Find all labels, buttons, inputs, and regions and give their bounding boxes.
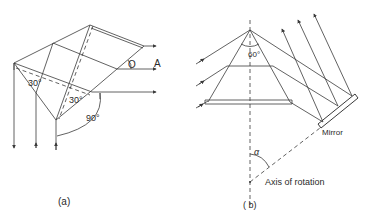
figure-a: 30° 30° 90° O A (a): [14, 25, 161, 207]
point-label-o: O: [128, 59, 136, 70]
mirror-label: Mirror: [322, 128, 343, 137]
apex-angle-label: 60°: [248, 50, 260, 59]
prism-b: [205, 30, 292, 104]
axis-of-rotation-label: Axis of rotation: [265, 177, 325, 187]
axis-of-rotation-line: [250, 128, 320, 182]
angle-label-30-left: 30°: [28, 78, 42, 88]
mirror: [318, 94, 358, 128]
point-label-a: A: [154, 58, 161, 69]
reflected-rays: [282, 14, 352, 122]
optics-diagram: 30° 30° 90° O A (a) 60°: [0, 0, 374, 217]
prism-a-outline: [14, 25, 144, 120]
rotation-point: [249, 181, 251, 183]
caption-a: (a): [58, 196, 70, 207]
alpha-label: α: [254, 147, 260, 157]
incoming-rays-b: [196, 30, 250, 108]
alpha-arc: [250, 154, 269, 167]
angle-label-30-bottom: 30°: [69, 95, 83, 105]
angle-label-90: 90°: [86, 113, 100, 123]
caption-b: ( b): [243, 200, 257, 210]
figure-b: 60° Mirror α: [196, 14, 358, 210]
